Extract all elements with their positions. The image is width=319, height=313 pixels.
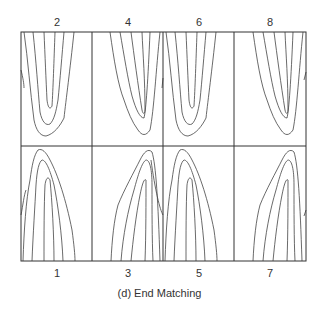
bottom-label-2: 3 [118, 267, 138, 279]
panel-3-contours [111, 150, 160, 261]
figure-caption: (d) End Matching [0, 287, 319, 299]
panel-2-contours [21, 32, 74, 136]
top-label-4: 8 [260, 16, 280, 28]
end-matching-diagram: 2 4 6 8 1 3 5 7 (d) End Matching [0, 0, 319, 313]
top-label-1: 2 [47, 16, 67, 28]
panel-6-contours [166, 32, 216, 136]
panel-8-contours [253, 32, 306, 135]
bottom-label-4: 7 [260, 267, 280, 279]
bottom-label-3: 5 [189, 267, 209, 279]
panel-7-contours [253, 150, 306, 261]
panel-4-contours [110, 32, 163, 135]
grid-lines [21, 32, 306, 261]
panel-5-contours [151, 149, 217, 261]
top-label-2: 4 [118, 16, 138, 28]
top-label-3: 6 [189, 16, 209, 28]
panel-1-contours [21, 149, 75, 261]
bottom-label-1: 1 [47, 267, 67, 279]
